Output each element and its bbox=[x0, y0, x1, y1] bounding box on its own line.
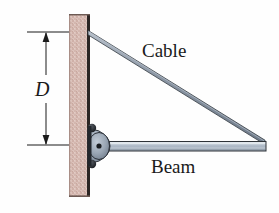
diagram-canvas bbox=[0, 0, 279, 213]
pin-wall-strip bbox=[88, 126, 92, 166]
beam-label: Beam bbox=[151, 157, 195, 176]
arrow-down-icon bbox=[43, 135, 50, 145]
wall-right-edge bbox=[87, 14, 90, 197]
arrow-up-icon bbox=[43, 32, 50, 42]
pin-center-hole bbox=[96, 143, 101, 148]
wall-body bbox=[69, 14, 90, 197]
cable-label: Cable bbox=[142, 41, 186, 60]
wall-bottom-edge bbox=[69, 195, 90, 197]
pin-joint-icon bbox=[88, 124, 110, 168]
beam bbox=[96, 142, 266, 152]
wall-left-edge bbox=[69, 14, 70, 197]
dimension-label-d: D bbox=[35, 79, 49, 99]
wall bbox=[69, 14, 90, 197]
wall-top-edge bbox=[69, 14, 90, 15]
physics-diagram-figure: Cable Beam D bbox=[0, 0, 279, 213]
